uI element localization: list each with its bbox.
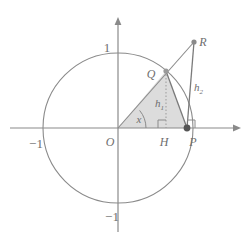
angle-label-x: x [136, 113, 142, 125]
h1-subscript: 1 [161, 104, 165, 112]
y-bottom-label: −1 [105, 209, 119, 224]
point-label-Q: Q [147, 67, 156, 81]
point-label-O: O [106, 135, 115, 149]
y-top-label: 1 [104, 40, 111, 55]
point-dot-P [184, 125, 191, 132]
segment-P-to-R [187, 42, 194, 128]
unit-circle-diagram: 1 −1 −1 O Q H P R x h1 h2 [0, 0, 250, 243]
x-left-label: −1 [29, 136, 43, 151]
point-dot-R [191, 39, 196, 44]
point-dot-Q [163, 68, 168, 73]
point-label-R: R [198, 35, 207, 49]
h2-label: h2 [194, 81, 204, 96]
figure-container: 1 −1 −1 O Q H P R x h1 h2 [0, 0, 250, 243]
point-label-P: P [188, 135, 197, 149]
point-label-H: H [159, 135, 170, 149]
y-axis-arrow-icon [115, 17, 122, 25]
h2-subscript: 2 [200, 88, 204, 96]
x-axis-arrow-icon [233, 125, 241, 132]
